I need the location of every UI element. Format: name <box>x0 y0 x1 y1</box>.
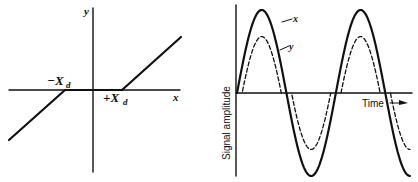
time-axis-label: Time <box>362 98 384 109</box>
x-curve-label: x <box>282 13 298 24</box>
x-curve-label-text: x <box>292 13 298 24</box>
signal-plot: x y Signal amplitude Time <box>221 5 412 176</box>
neg-threshold-label: −X d <box>47 73 71 90</box>
neg-threshold-main: −X <box>47 73 64 88</box>
positive-slope-segment <box>122 37 181 90</box>
y-curve-label-text: y <box>288 41 294 52</box>
dead-zone-plot: y x −X d +X d <box>9 5 181 172</box>
neg-threshold-sub: d <box>66 80 71 90</box>
time-arrow-icon <box>399 100 408 105</box>
negative-slope-segment <box>9 90 65 140</box>
time-label-group: Time <box>362 98 408 109</box>
y-axis-label: y <box>82 5 89 17</box>
x-label-leader <box>282 19 292 22</box>
x-axis-label: x <box>172 91 179 103</box>
pos-threshold-label: +X d <box>103 90 128 107</box>
pos-threshold-main: +X <box>103 90 119 105</box>
y-curve-label: y <box>280 41 294 52</box>
y-label-leader <box>280 46 289 50</box>
pos-threshold-sub: d <box>123 97 128 107</box>
amplitude-axis-label: Signal amplitude <box>221 86 232 160</box>
diagram-canvas: y x −X d +X d x y Signal amplitude Time <box>0 0 418 182</box>
